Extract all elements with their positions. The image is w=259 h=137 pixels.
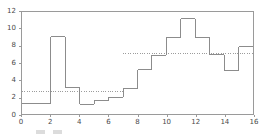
x-tick-label: 6 [100, 119, 116, 126]
x-tick-mark [225, 115, 226, 117]
x-tick-label: 12 [188, 119, 204, 126]
x-tick-mark [21, 115, 22, 117]
x-tick-mark [138, 115, 139, 117]
y-tick-label: 4 [2, 77, 16, 84]
step-line [22, 19, 253, 104]
x-tick-label: 4 [71, 119, 87, 126]
y-tick-label: 10 [2, 25, 16, 32]
y-tick-label: 8 [2, 42, 16, 49]
plot-area [21, 11, 254, 115]
x-tick-mark [196, 115, 197, 117]
x-tick-label: 8 [130, 119, 146, 126]
chart-figure: 024681012 0246810121416 [0, 0, 259, 137]
x-tick-label: 14 [217, 119, 233, 126]
y-tick-label: 6 [2, 60, 16, 67]
caption-strip [36, 128, 216, 135]
x-tick-label: 10 [159, 119, 175, 126]
x-tick-mark [167, 115, 168, 117]
x-tick-mark [50, 115, 51, 117]
x-tick-mark [79, 115, 80, 117]
x-tick-mark [254, 115, 255, 117]
x-tick-label: 16 [246, 119, 259, 126]
legend-swatch-icon [53, 130, 62, 134]
x-tick-label: 0 [13, 119, 29, 126]
step-plot-svg [22, 12, 253, 114]
y-tick-label: 0 [2, 112, 16, 119]
y-tick-label: 12 [2, 8, 16, 15]
series-group [22, 19, 253, 104]
x-tick-label: 2 [42, 119, 58, 126]
x-tick-mark [108, 115, 109, 117]
legend-swatch-icon [36, 130, 45, 134]
y-tick-label: 2 [2, 94, 16, 101]
